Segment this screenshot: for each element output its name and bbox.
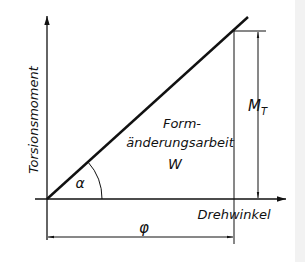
x-axis-label: Drehwinkel	[197, 207, 271, 222]
moment-angle-line	[47, 17, 248, 199]
angle-arc	[88, 162, 102, 199]
torsion-diagram: Torsionsmoment Drehwinkel Form- änderung…	[0, 0, 305, 262]
moment-symbol: MT	[248, 97, 268, 117]
angle-dimension-symbol: φ	[139, 219, 149, 237]
moment-symbol-main: M	[248, 97, 261, 115]
moment-symbol-subscript: T	[261, 106, 268, 117]
area-symbol: W	[168, 156, 183, 172]
area-label-line1: Form-	[163, 116, 201, 131]
area-label-line2: änderungsarbeit	[126, 135, 234, 150]
angle-symbol: α	[75, 175, 85, 191]
y-axis-label: Torsionsmoment	[26, 65, 41, 174]
